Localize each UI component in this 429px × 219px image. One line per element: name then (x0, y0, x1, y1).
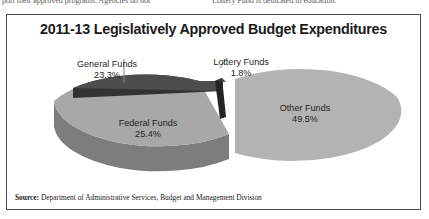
chart-title: 2011-13 Legislatively Approved Budget Ex… (7, 21, 420, 37)
pie-label-general-funds: General Funds 23.3% (64, 59, 150, 82)
pie-label-general-funds-name: General Funds (77, 59, 137, 69)
figure-container: 2011-13 Legislatively Approved Budget Ex… (6, 14, 421, 210)
document-left-column-fragment: port their approved programs. Agencies d… (2, 0, 150, 5)
pie-label-other-funds: Other Funds 49.5% (262, 103, 348, 126)
document-right-column-fragment: Lottery Fund is dedicated to education. (212, 0, 336, 5)
pie-label-lottery-funds-value: 1.8% (203, 68, 279, 79)
pie-label-lottery-funds-name: Lottery Funds (213, 57, 269, 67)
pie-label-other-funds-name: Other Funds (280, 103, 331, 113)
source-note: Source: Department of Administrative Ser… (15, 193, 262, 202)
pie-label-federal-funds-value: 25.4% (103, 129, 193, 140)
document-text-fragments: port their approved programs. Agencies d… (0, 0, 429, 13)
source-note-prefix: Source: (15, 193, 39, 202)
pie-label-federal-funds-name: Federal Funds (119, 118, 178, 128)
pie-label-federal-funds: Federal Funds 25.4% (103, 118, 193, 141)
pie-label-other-funds-value: 49.5% (262, 114, 348, 125)
pie-label-lottery-funds: Lottery Funds 1.8% (203, 57, 279, 80)
source-note-text: Department of Administrative Services, B… (39, 193, 262, 202)
pie-chart-plot-area: General Funds 23.3% Lottery Funds 1.8% O… (7, 41, 422, 181)
pie-label-general-funds-value: 23.3% (64, 70, 150, 81)
